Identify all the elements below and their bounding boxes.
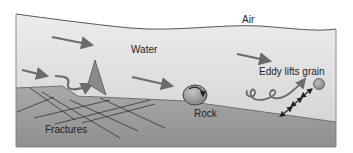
rock-label: Rock [194, 108, 217, 119]
fractures-label: Fractures [45, 124, 87, 135]
sediment-grain-icon [314, 79, 325, 90]
eddy-label: Eddy lifts grain [259, 66, 325, 77]
air-label: Air [242, 14, 254, 25]
rock-boulder-icon [183, 85, 207, 105]
water-label: Water [131, 44, 157, 55]
